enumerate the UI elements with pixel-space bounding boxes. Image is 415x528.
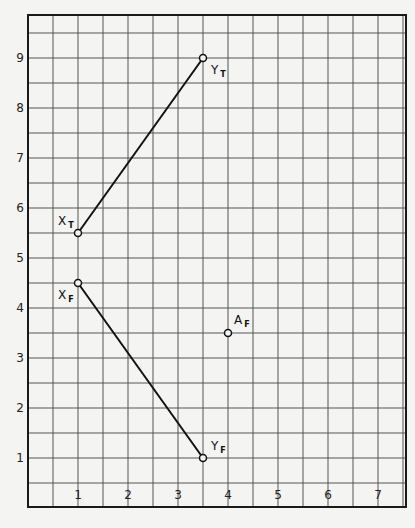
y-tick-label: 9 — [16, 51, 24, 65]
chart: 123456789 1234567 XTYTXFYFAF — [0, 0, 415, 528]
segment-XT-YT — [78, 58, 203, 233]
segment-XF-YF — [78, 283, 203, 458]
point-label-YF: YF — [210, 439, 226, 455]
y-tick-label: 5 — [16, 251, 24, 265]
point-XF — [75, 280, 82, 287]
point-label-XF: XF — [58, 288, 74, 304]
point-label-AF: AF — [234, 313, 250, 329]
y-tick-label: 8 — [16, 101, 24, 115]
point-YF — [200, 455, 207, 462]
point-YT — [200, 55, 207, 62]
point-AF — [225, 330, 232, 337]
point-label-XT: XT — [58, 214, 74, 230]
point-XT — [75, 230, 82, 237]
y-tick-label: 3 — [16, 351, 24, 365]
y-tick-label: 4 — [16, 301, 24, 315]
x-tick-label: 7 — [374, 488, 382, 502]
y-tick-label: 7 — [16, 151, 24, 165]
y-tick-label: 1 — [16, 451, 24, 465]
x-tick-label: 6 — [324, 488, 332, 502]
x-tick-label: 2 — [124, 488, 132, 502]
x-axis-ticks: 1234567 — [74, 488, 382, 502]
y-tick-label: 2 — [16, 401, 24, 415]
x-tick-label: 5 — [274, 488, 282, 502]
grid — [28, 15, 406, 507]
y-tick-label: 6 — [16, 201, 24, 215]
x-tick-label: 1 — [74, 488, 82, 502]
x-tick-label: 3 — [174, 488, 182, 502]
y-axis-ticks: 123456789 — [16, 51, 24, 465]
x-tick-label: 4 — [224, 488, 232, 502]
point-label-YT: YT — [210, 63, 226, 79]
